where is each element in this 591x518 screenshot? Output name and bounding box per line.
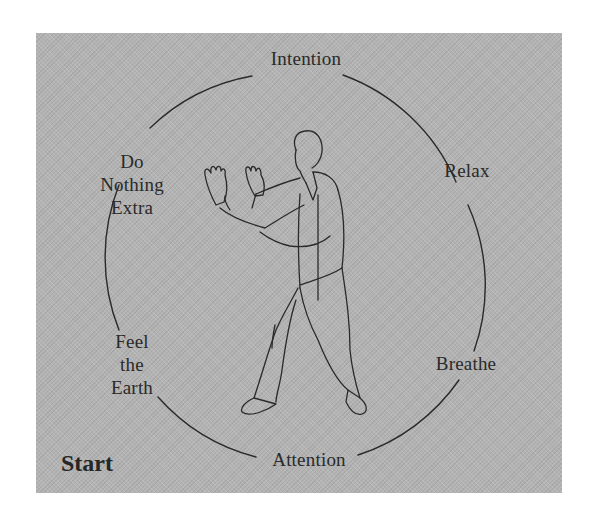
arc-attention-to-breathe (358, 380, 459, 455)
arc-earth-to-attention (158, 397, 256, 457)
node-intention: Intention (271, 47, 341, 70)
node-breathe: Breathe (436, 352, 496, 375)
node-attention: Attention (272, 448, 346, 471)
node-do-nothing-extra: Do Nothing Extra (100, 150, 164, 219)
node-feel-the-earth: Feel the Earth (111, 330, 153, 399)
arc-breathe-to-relax (468, 205, 485, 351)
tai-chi-figure-icon (205, 131, 366, 415)
start-label: Start (61, 450, 113, 477)
node-relax: Relax (444, 159, 489, 182)
arc-relax-to-intention (343, 75, 456, 182)
arc-intention-to-donothing (150, 76, 252, 128)
cycle-ring (105, 75, 485, 457)
cycle-diagram (0, 0, 591, 518)
